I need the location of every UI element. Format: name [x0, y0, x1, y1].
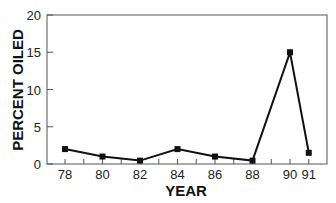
data-point-marker — [175, 146, 181, 152]
x-tick-label: 82 — [133, 167, 147, 182]
data-point-marker — [212, 154, 218, 160]
line-chart: 05101520 7880828486889091 YEAR PERCENT O… — [0, 0, 336, 203]
data-point-marker — [137, 158, 143, 164]
x-tick-label: 91 — [302, 167, 316, 182]
y-tick-label: 0 — [34, 157, 41, 172]
y-tick-label: 20 — [27, 8, 41, 23]
data-point-marker — [306, 150, 312, 156]
data-point-marker — [250, 158, 256, 164]
data-line — [65, 52, 309, 160]
y-axis-title: PERCENT OILED — [9, 29, 26, 151]
x-tick-label: 86 — [208, 167, 222, 182]
x-tick-label: 80 — [95, 167, 109, 182]
y-tick-label: 15 — [27, 45, 41, 60]
y-tick-label: 10 — [27, 83, 41, 98]
x-axis: 7880828486889091 — [58, 159, 316, 182]
data-point-marker — [100, 154, 106, 160]
x-tick-label: 88 — [245, 167, 259, 182]
x-tick-label: 90 — [283, 167, 297, 182]
y-axis: 05101520 — [27, 8, 53, 172]
y-tick-label: 5 — [34, 120, 41, 135]
data-markers — [62, 49, 312, 163]
x-tick-label: 84 — [170, 167, 184, 182]
data-point-marker — [287, 49, 293, 55]
data-point-marker — [62, 146, 68, 152]
x-axis-title: YEAR — [165, 182, 207, 199]
plot-frame — [47, 15, 327, 164]
x-tick-label: 78 — [58, 167, 72, 182]
